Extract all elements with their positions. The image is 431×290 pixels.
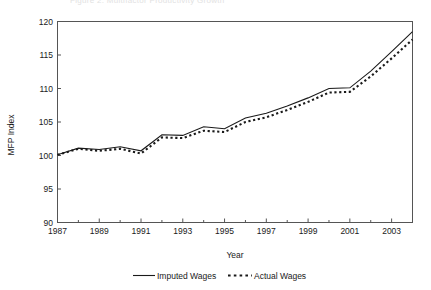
series-line-imputed-wages bbox=[58, 32, 413, 155]
y-tick-label: 110 bbox=[39, 84, 53, 94]
y-tick-label: 115 bbox=[39, 50, 53, 60]
chart-figure: Figure 2. Multifactor Productivity Growt… bbox=[0, 0, 431, 290]
y-axis-tick-labels: 9095100105110115120 bbox=[39, 17, 53, 228]
x-tick-label: 1991 bbox=[132, 226, 151, 236]
series-line-actual-wages bbox=[58, 40, 413, 155]
x-tick-label: 1995 bbox=[215, 226, 234, 236]
x-tick-label: 1993 bbox=[173, 226, 192, 236]
x-axis-tick-labels: 198719891991199319951997199920012003 bbox=[48, 226, 401, 236]
legend-label-actual-wages: Actual Wages bbox=[254, 271, 306, 281]
x-tick-label: 1989 bbox=[90, 226, 109, 236]
x-tick-label: 1999 bbox=[299, 226, 318, 236]
x-axis-ticks bbox=[58, 219, 413, 223]
chart-legend: Imputed Wages Actual Wages bbox=[133, 271, 306, 281]
plot-frame bbox=[58, 22, 413, 223]
y-tick-label: 105 bbox=[39, 117, 53, 127]
faded-title: Figure 2. Multifactor Productivity Growt… bbox=[70, 0, 360, 5]
mfp-index-line-chart: 9095100105110115120 19871989199119931995… bbox=[0, 0, 431, 290]
x-tick-label: 1987 bbox=[48, 226, 67, 236]
legend-label-imputed-wages: Imputed Wages bbox=[157, 271, 216, 281]
y-tick-label: 95 bbox=[44, 184, 54, 194]
y-axis-title: MFP Index bbox=[6, 114, 16, 156]
x-tick-label: 1997 bbox=[257, 226, 276, 236]
y-tick-label: 100 bbox=[39, 151, 53, 161]
x-tick-label: 2003 bbox=[382, 226, 401, 236]
y-axis-ticks bbox=[58, 22, 62, 223]
x-axis-title: Year bbox=[226, 250, 243, 260]
y-tick-label: 120 bbox=[39, 17, 53, 27]
x-tick-label: 2001 bbox=[340, 226, 359, 236]
